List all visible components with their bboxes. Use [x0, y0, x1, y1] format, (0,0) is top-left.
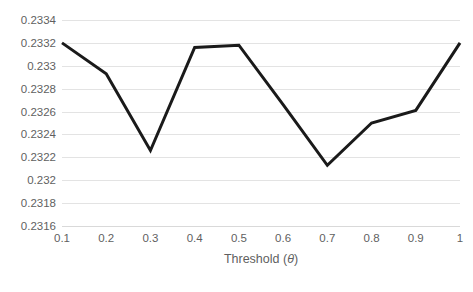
line-chart: 0.23160.23180.2320.23220.23240.23260.232… [0, 0, 473, 292]
series-layer [0, 0, 473, 292]
series-line-value [62, 43, 460, 165]
